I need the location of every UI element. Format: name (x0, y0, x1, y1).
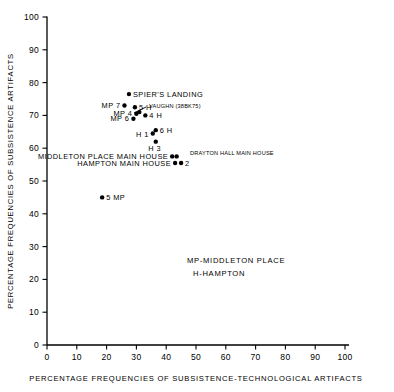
data-point-mp2[interactable] (179, 161, 183, 165)
data-point-mp7[interactable] (122, 103, 126, 107)
data-point-label-h4: 4 H (149, 111, 162, 120)
data-point-label-mp6: MP 6 (110, 114, 129, 123)
y-axis-title: PERCENTAGE FREQUENCIES OF SUBSISTENCE AR… (6, 53, 15, 309)
data-point-label-hampton-main-house: HAMPTON MAIN HOUSE (77, 159, 171, 168)
x-axis-tick-label: 30 (131, 352, 141, 362)
data-point-h6[interactable] (154, 128, 158, 132)
data-point-h5[interactable] (133, 105, 137, 109)
y-axis-tick-label: 0 (34, 340, 39, 350)
data-point-mp5[interactable] (100, 195, 104, 199)
x-axis-tick-label: 50 (191, 352, 201, 362)
y-axis-tick-label: 40 (29, 209, 39, 219)
data-point-label-drayton-hall-main-house: DRAYTON HALL MAIN HOUSE (190, 150, 274, 156)
data-point-hampton-main-house[interactable] (173, 161, 177, 165)
x-axis-tick-label: 10 (72, 352, 82, 362)
y-axis-tick-label: 10 (29, 307, 39, 317)
data-point-label-h1: H 1 (136, 130, 149, 139)
data-point-h4[interactable] (143, 113, 147, 117)
chart-canvas: 0102030405060708090100010203040506070809… (0, 0, 394, 392)
data-point-label-h6: 6 H (160, 126, 173, 135)
x-axis-tick-label: 90 (310, 352, 320, 362)
x-axis-tick-label: 40 (161, 352, 171, 362)
data-point-label-mp2: 2 (185, 159, 190, 168)
scatter-plot: 0102030405060708090100010203040506070809… (0, 0, 394, 392)
data-point-label-spiers-landing: SPIER'S LANDING (133, 90, 203, 99)
data-point-mp4[interactable] (134, 112, 138, 116)
y-axis-tick-label: 100 (24, 12, 39, 22)
y-axis-tick-label: 80 (29, 78, 39, 88)
x-axis-tick-label: 70 (251, 352, 261, 362)
data-point-h1[interactable] (151, 131, 155, 135)
data-point-drayton-hall-main-house[interactable] (174, 154, 178, 158)
x-axis-tick-label: 60 (221, 352, 231, 362)
y-axis-tick-label: 30 (29, 242, 39, 252)
x-axis-title: PERCENTAGE FREQUENCIES OF SUBSISTENCE-TE… (29, 374, 362, 383)
y-axis-tick-label: 70 (29, 110, 39, 120)
data-point-label-vaughn: VAUGHN (38BK75) (149, 103, 201, 109)
y-axis-tick-label: 20 (29, 274, 39, 284)
data-point-label-mp5: 5 MP (106, 193, 125, 202)
y-axis-tick-label: 90 (29, 45, 39, 55)
x-axis-tick-label: 20 (102, 352, 112, 362)
data-point-spiers-landing[interactable] (127, 92, 131, 96)
annotation-legend-h: H-HAMPTON (193, 269, 245, 278)
x-axis-tick-label: 0 (44, 352, 49, 362)
x-axis-tick-label: 80 (280, 352, 290, 362)
y-axis-tick-label: 50 (29, 176, 39, 186)
annotation-legend-mp: MP-MIDDLETON PLACE (187, 256, 285, 265)
x-axis-tick-label: 100 (337, 352, 352, 362)
data-point-mp6[interactable] (131, 116, 135, 120)
